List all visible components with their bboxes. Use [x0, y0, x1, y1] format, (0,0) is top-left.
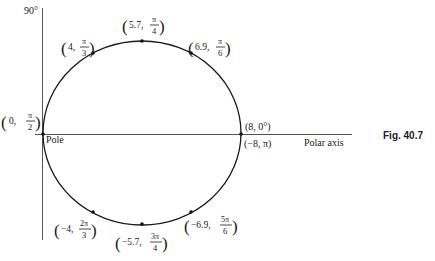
svg-text:4: 4 — [153, 243, 158, 253]
svg-text:6.9,: 6.9, — [195, 42, 209, 52]
svg-text:(: ( — [54, 221, 60, 240]
svg-text:π: π — [218, 37, 222, 46]
label-pole-point: ( 0, π 2 ) — [1, 111, 41, 132]
svg-text:(: ( — [115, 234, 121, 253]
svg-text:4: 4 — [152, 26, 157, 36]
point-pole — [41, 132, 45, 136]
svg-text:): ) — [225, 39, 231, 58]
label-m8-pi: (−8, π) — [244, 138, 271, 150]
point-m4-2pi3 — [91, 210, 95, 214]
svg-text:π: π — [28, 111, 32, 120]
label-4-pi3: ( 4, π 3 ) — [61, 37, 95, 58]
svg-text:6: 6 — [218, 48, 222, 58]
svg-text:3: 3 — [82, 48, 86, 58]
svg-text:π: π — [82, 37, 86, 46]
svg-text:3π: 3π — [151, 232, 159, 241]
polar-circle-diagram: 90° Pole Polar axis ( 0, π 2 ) ( 4, π 3 … — [0, 0, 435, 261]
svg-text:): ) — [35, 113, 41, 132]
svg-text:5.7,: 5.7, — [129, 20, 143, 30]
svg-text:−4,: −4, — [61, 224, 73, 234]
svg-text:2: 2 — [28, 122, 32, 132]
svg-text:(: ( — [1, 113, 7, 132]
point-m57-3pi4 — [140, 222, 144, 226]
figure-caption: Fig. 40.7 — [383, 130, 423, 141]
svg-text:2π: 2π — [80, 219, 88, 228]
point-57-pi4 — [140, 39, 144, 43]
svg-text:0,: 0, — [9, 116, 16, 126]
svg-text:3: 3 — [82, 230, 86, 240]
label-m4-2pi3: ( −4, 2π 3 ) — [54, 219, 97, 240]
label-m57-3pi4: ( −5.7, 3π 4 ) — [115, 232, 168, 253]
svg-text:): ) — [162, 234, 168, 253]
svg-text:): ) — [89, 39, 95, 58]
label-57-pi4: ( 5.7, π 4 ) — [122, 15, 165, 36]
svg-text:(: ( — [61, 39, 67, 58]
polar-axis-label: Polar axis — [304, 137, 344, 148]
svg-text:): ) — [159, 17, 165, 36]
svg-text:(: ( — [188, 39, 194, 58]
label-m69-5pi6: ( −6.9, 5π 6 ) — [184, 215, 238, 236]
vertical-axis-label: 90° — [24, 5, 38, 16]
label-8-0: (8, 0°) — [245, 121, 271, 133]
svg-text:): ) — [91, 221, 97, 240]
circle-curve — [43, 41, 241, 225]
svg-text:4,: 4, — [68, 42, 75, 52]
point-8-0 — [239, 132, 243, 136]
svg-text:5π: 5π — [221, 215, 229, 224]
svg-text:6: 6 — [223, 226, 227, 236]
point-m69-5pi6 — [189, 210, 193, 214]
svg-text:(: ( — [122, 17, 128, 36]
svg-text:): ) — [232, 217, 238, 236]
svg-text:(: ( — [184, 217, 190, 236]
svg-text:π: π — [152, 15, 156, 24]
svg-text:−5.7,: −5.7, — [122, 237, 142, 247]
pole-label: Pole — [46, 134, 64, 145]
svg-text:−6.9,: −6.9, — [191, 220, 211, 230]
